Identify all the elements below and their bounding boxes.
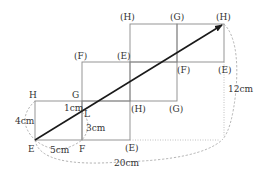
label-E4: (E) (218, 65, 232, 75)
label-G5: (G) (170, 12, 184, 22)
label-20cm: 20cm (114, 158, 139, 168)
label-E: E (28, 144, 35, 154)
label-F: F (79, 144, 85, 154)
rectangle-position-6 (177, 24, 224, 62)
path-arrow (35, 25, 222, 140)
rectangle-position-3 (82, 62, 130, 101)
geometry-diagram: H G E F L (H) (G) (E) (F) (E) (F) (E) (H… (0, 0, 263, 175)
label-E3: (E) (117, 51, 131, 61)
label-G: G (72, 90, 79, 100)
label-3cm: 3cm (86, 123, 106, 133)
label-L: L (84, 109, 90, 119)
label-F3: (F) (74, 51, 87, 61)
label-12cm: 12cm (228, 84, 253, 94)
label-H5: (H) (120, 12, 135, 22)
label-H2: (H) (131, 104, 146, 114)
label-5cm: 5cm (50, 145, 70, 155)
label-E2: (E) (125, 143, 139, 153)
label-H: H (29, 90, 37, 100)
label-1cm: 1cm (64, 103, 84, 113)
label-F4: (F) (177, 65, 190, 75)
label-H6: (H) (216, 12, 231, 22)
label-4cm: 4cm (15, 116, 35, 126)
label-G2: (G) (169, 104, 183, 114)
